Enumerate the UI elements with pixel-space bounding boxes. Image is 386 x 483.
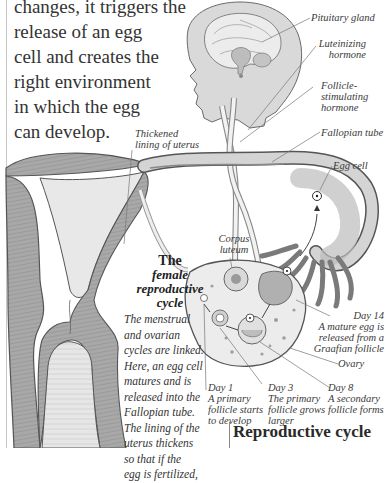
label-day-1: Day 1 A primary follicle starts to devel… [208,382,263,426]
label-line: follicle grows [268,404,325,415]
label-line: Corpus [214,233,254,244]
label-line: hormone [321,102,368,113]
label-luteinizing-hormone: Luteinizing hormone [316,38,366,60]
label-line: lining of uterus [135,139,199,150]
label-line: Graafian follicle [296,343,384,354]
label-day-3: Day 3 The primary follicle grows larger [268,382,325,426]
label-line: hormone [316,49,366,60]
label-line: Luteinizing [316,38,366,49]
label-line: A secondary [328,393,384,404]
caption-title-line: cycle [124,296,216,310]
caption-body-line: The menstrual [124,312,216,328]
caption-body-line: egg is fertilized, [124,467,216,483]
caption-female-reproductive-cycle: The female reproductive cycle The menstr… [124,254,216,483]
label-fallopian-tube: Fallopian tube [321,127,383,138]
label-line: Day 1 [208,382,263,393]
label-line: stimulating [321,91,368,102]
label-egg-cell: Egg cell [333,160,368,171]
label-pituitary-gland: Pituitary gland [311,12,375,23]
section-heading: Reproductive cycle [233,422,371,442]
heading-divider [229,422,230,448]
label-follicle-stimulating-hormone: Follicle- stimulating hormone [321,80,368,113]
caption-body-line: Fallopian tube. [124,405,216,421]
label-corpus-luteum: Corpus luteum [214,233,254,255]
label-line: Day 14 [296,310,384,321]
label-line: A primary [208,393,263,404]
caption-title: The female reproductive cycle [124,254,216,310]
label-line: follicle starts [208,404,263,415]
label-line: released from a [296,332,384,343]
caption-body-line: so that if the [124,452,216,468]
caption-title-line: The [124,254,216,268]
caption-body-line: and ovarian [124,328,216,344]
label-thickened-lining: Thickened lining of uterus [135,128,199,150]
label-line: follicle forms [328,404,384,415]
label-line: Follicle- [321,80,368,91]
caption-body-line: uterus thickens [124,436,216,452]
caption-body-line: cycles are linked. [124,343,216,359]
label-line: A mature egg is [296,321,384,332]
caption-body-line: The lining of the [124,421,216,437]
label-line: The primary [268,393,325,404]
caption-body-line: Here, an egg cell [124,359,216,375]
caption-title-line: female [124,268,216,282]
label-line: Day 3 [268,382,325,393]
label-day-14: Day 14 A mature egg is released from a G… [296,310,384,354]
label-day-8: Day 8 A secondary follicle forms [328,382,384,415]
head-with-brain [187,2,301,128]
label-ovary: Ovary [338,358,364,369]
caption-body-line: released into the [124,390,216,406]
caption-body: The menstrual and ovarian cycles are lin… [124,312,216,483]
label-line: luteum [214,244,254,255]
caption-body-line: matures and is [124,374,216,390]
label-line: Day 8 [328,382,384,393]
caption-title-line: reproductive [124,282,216,296]
label-line: Thickened [135,128,199,139]
